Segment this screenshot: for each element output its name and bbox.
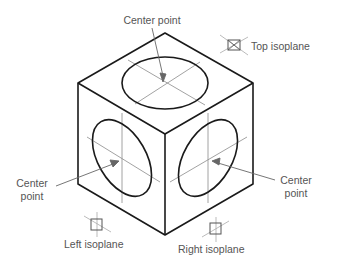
left-isoplane-label: Left isoplane [64,238,124,250]
top-center-point-label: Center point [114,14,190,26]
right-center-label-2: point [276,187,316,199]
top-isoplane-icon [220,35,248,55]
right-center-label-1: Center [276,174,316,186]
cube-edges [78,33,253,235]
right-isoplane-icon [202,217,229,242]
left-center-label-1: Center [12,177,52,189]
centerlines [87,60,247,203]
top-ellipse [122,57,208,109]
top-isoplane-label: Top isoplane [251,40,310,52]
right-isoplane-label: Right isoplane [178,243,245,255]
left-center-label-2: point [12,190,52,202]
left-isoplane-icon [84,212,111,237]
